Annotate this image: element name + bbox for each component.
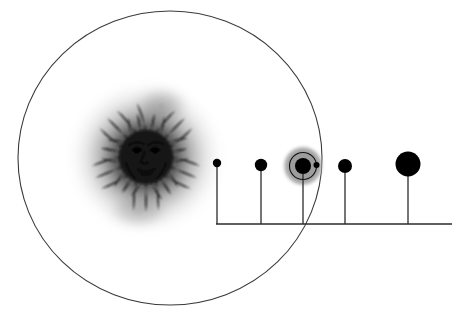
- planet-3-earth-body[interactable]: [295, 158, 311, 174]
- solar-system-diagram: [0, 0, 476, 324]
- diagram-canvas: Solar system schematic with sun and five…: [0, 0, 476, 324]
- planet-2-body[interactable]: [255, 159, 267, 171]
- planet-3-earth-moon[interactable]: [314, 162, 320, 168]
- planet-1-body[interactable]: [213, 159, 221, 167]
- planet-5-body[interactable]: [396, 152, 421, 177]
- sun-disc: [119, 130, 173, 184]
- planet-4-body[interactable]: [338, 159, 352, 173]
